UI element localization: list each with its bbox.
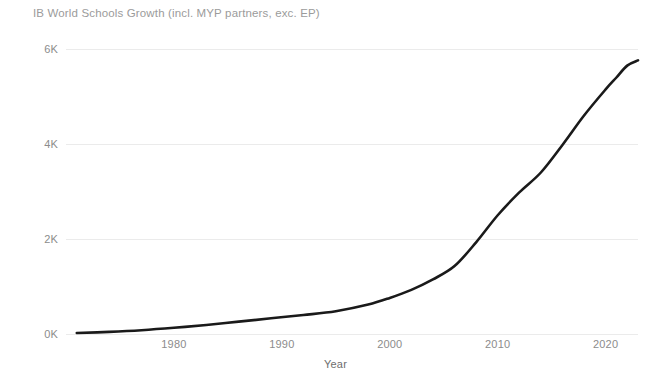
x-axis-tick-label: 2010 xyxy=(485,338,510,350)
y-axis-tick-label: 2K xyxy=(44,233,58,245)
x-axis-title: Year xyxy=(0,358,671,370)
x-axis-tick-label: 1990 xyxy=(269,338,294,350)
x-axis-tick-label: 1980 xyxy=(161,338,186,350)
y-axis-tick-label: 4K xyxy=(44,138,58,150)
line-series-svg xyxy=(66,49,638,334)
data-line xyxy=(77,60,638,333)
y-axis-tick-label: 6K xyxy=(44,43,58,55)
chart-title: IB World Schools Growth (incl. MYP partn… xyxy=(33,7,320,19)
y-gridline xyxy=(66,334,638,335)
x-axis-tick-label: 2000 xyxy=(377,338,402,350)
y-axis-tick-label: 0K xyxy=(44,328,58,340)
x-axis-tick-label: 2020 xyxy=(593,338,618,350)
y-axis-tick-labels: 0K2K4K6K xyxy=(0,0,58,384)
chart-container: IB World Schools Growth (incl. MYP partn… xyxy=(0,0,671,384)
plot-area xyxy=(66,49,638,334)
